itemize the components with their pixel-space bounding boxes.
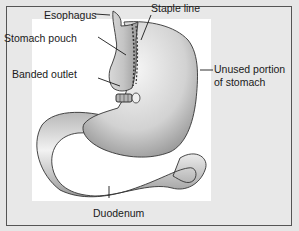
label-unused-portion-line2: of stomach <box>214 76 265 88</box>
label-unused-portion-line1: Unused portion <box>214 63 285 75</box>
label-banded-outlet: Banded outlet <box>12 68 77 80</box>
label-staple-line: Staple line <box>151 2 200 14</box>
label-esophagus: Esophagus <box>44 9 97 21</box>
label-stomach-pouch: Stomach pouch <box>4 32 77 44</box>
label-duodenum: Duodenum <box>93 207 144 219</box>
unused-stomach-shape <box>83 22 198 157</box>
banded-outlet-band <box>116 93 140 103</box>
